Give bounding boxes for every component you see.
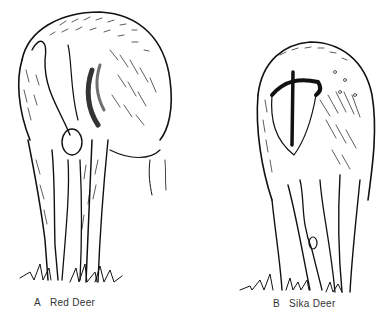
sika-deer-illustration	[0, 0, 390, 300]
caption-letter: A	[34, 297, 41, 308]
caption-label: Red Deer	[50, 297, 95, 308]
caption-letter: B	[273, 298, 280, 309]
caption-label: Sika Deer	[289, 298, 336, 309]
deer-rump-comparison-figure: ARed Deer BSika Deer	[0, 0, 390, 324]
caption-red-deer: ARed Deer	[34, 297, 95, 308]
caption-sika-deer: BSika Deer	[273, 298, 336, 309]
